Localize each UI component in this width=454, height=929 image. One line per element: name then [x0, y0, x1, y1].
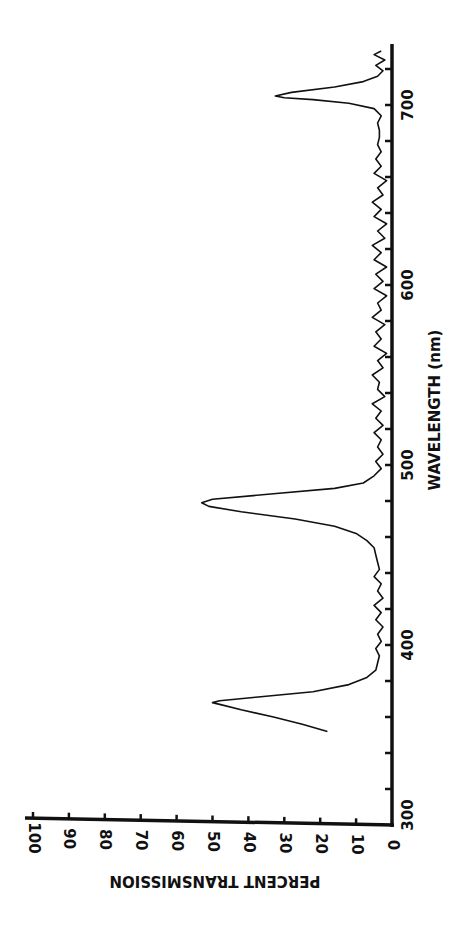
transmission-tick-label: 30 [276, 832, 294, 853]
wavelength-axis-title: WAVELENGTH (nm) [426, 330, 444, 491]
transmission-axis [25, 818, 394, 825]
transmission-curve [202, 51, 387, 731]
transmission-tick-label: 50 [204, 831, 222, 852]
wavelength-tick-labels: 300400500600700 [399, 89, 417, 830]
wavelength-tick-label: 400 [399, 629, 417, 660]
wavelength-ticks [385, 69, 392, 789]
transmission-tick-label: 90 [60, 828, 78, 849]
transmission-axis-title: PERCENT TRANSMISSION [109, 872, 320, 890]
transmission-tick-label: 100 [25, 822, 43, 853]
transmission-spectrum-chart: 300400500600700 0102030405060708090100 W… [0, 0, 454, 929]
transmission-tick-label: 80 [96, 829, 114, 850]
wavelength-tick-label: 300 [399, 799, 417, 830]
wavelength-tick-label: 700 [399, 89, 417, 120]
wavelength-tick-label: 600 [399, 269, 417, 300]
transmission-tick-label: 0 [384, 840, 402, 850]
transmission-tick-label: 40 [240, 832, 258, 853]
wavelength-tick-label: 500 [399, 449, 417, 480]
transmission-tick-label: 10 [348, 834, 366, 855]
transmission-tick-labels: 0102030405060708090100 [25, 822, 402, 854]
transmission-tick-label: 20 [312, 833, 330, 854]
transmission-tick-label: 60 [168, 830, 186, 851]
transmission-tick-label: 70 [132, 830, 150, 851]
